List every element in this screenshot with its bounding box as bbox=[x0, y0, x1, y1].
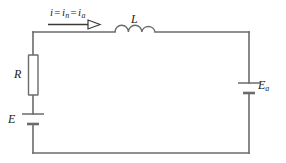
battery-left-label: E bbox=[8, 113, 15, 125]
current-arrow-icon bbox=[48, 20, 100, 29]
battery-right-label: Ea bbox=[258, 79, 269, 91]
inductor-symbol bbox=[115, 25, 155, 32]
battery-right-symbol bbox=[238, 83, 260, 93]
current-equation-label: i=in=ia bbox=[50, 7, 86, 18]
current-equals-first: = bbox=[53, 6, 62, 18]
current-arrow-head bbox=[88, 20, 100, 29]
current-symbol-ia-subscript: a bbox=[81, 11, 85, 20]
resistor-label: R bbox=[14, 68, 21, 80]
circuit-diagram: R E L Ea i=in=ia bbox=[0, 0, 286, 163]
battery-left-symbol bbox=[22, 114, 44, 124]
inductor-label: L bbox=[131, 13, 138, 25]
resistor-symbol bbox=[29, 55, 39, 95]
battery-right-label-subscript: a bbox=[265, 84, 269, 93]
current-symbol-in-subscript: n bbox=[65, 11, 69, 20]
circuit-schematic-svg bbox=[0, 0, 286, 163]
current-equals-second: = bbox=[70, 6, 79, 18]
